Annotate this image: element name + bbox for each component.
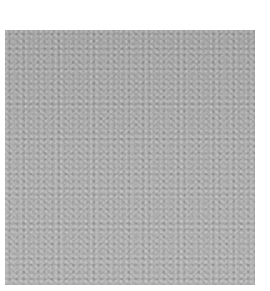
textured-swatch [5, 30, 255, 285]
